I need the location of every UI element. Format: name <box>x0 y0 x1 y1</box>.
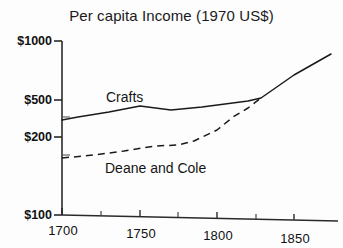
series-annotation-deane-and-cole: Deane and Cole <box>105 160 206 176</box>
y-axis-label-200: $200 <box>4 130 52 144</box>
series-line-deane-and-cole <box>62 98 261 158</box>
x-axis-label-1750: 1750 <box>118 226 164 241</box>
y-axis-label-1000: $1000 <box>4 34 52 48</box>
chart-container: Per capita Income (1970 US$) $1000 $500 … <box>0 0 343 248</box>
x-axis-label-1700: 1700 <box>40 223 86 238</box>
x-axis-label-1800: 1800 <box>195 228 241 243</box>
x-axis-line <box>62 215 338 221</box>
y-axis-label-100: $100 <box>4 208 52 222</box>
y-axis-label-500: $500 <box>4 93 52 107</box>
x-axis-label-1850: 1850 <box>272 231 318 246</box>
series-annotation-crafts: Crafts <box>106 89 143 105</box>
series-line-crafts <box>62 54 331 120</box>
